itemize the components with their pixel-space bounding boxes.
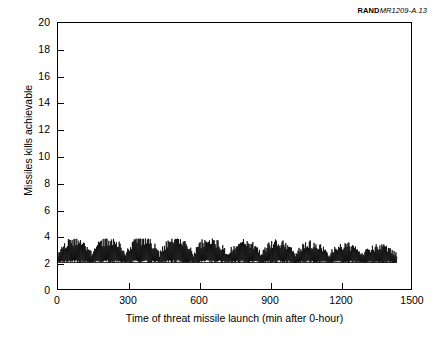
source-tag: RANDMR1209-A.13 <box>358 7 427 15</box>
y-axis-tick <box>58 184 64 185</box>
source-tag-mark: RAND <box>358 6 380 15</box>
y-axis-title: Missiles kills achievable <box>23 50 34 230</box>
y-axis-tick <box>58 103 64 104</box>
y-axis-tick-label: 18 <box>38 44 50 55</box>
y-axis-tick-label: 16 <box>38 70 50 81</box>
series-path <box>58 238 397 262</box>
y-axis-tick-label: 4 <box>44 231 50 242</box>
y-axis-tick-label: 8 <box>44 178 50 189</box>
y-axis-tick-label: 20 <box>38 17 50 28</box>
x-axis-tick <box>271 283 272 289</box>
y-axis-tick <box>58 157 64 158</box>
x-axis-tick <box>342 283 343 289</box>
source-tag-document: MR1209-A.13 <box>380 6 427 15</box>
data-series-line <box>58 23 411 289</box>
figure-container: RANDMR1209-A.13 02468101214161820 030060… <box>0 0 433 341</box>
y-axis-tick-label: 0 <box>44 285 50 296</box>
y-axis-tick <box>58 77 64 78</box>
x-axis-tick-label: 900 <box>261 295 279 306</box>
y-axis-tick <box>58 50 64 51</box>
y-axis-tick-label: 12 <box>38 124 50 135</box>
x-axis-tick-label: 0 <box>54 295 60 306</box>
x-axis-tick-label: 600 <box>190 295 208 306</box>
plot-frame <box>57 22 412 290</box>
x-axis-tick <box>129 283 130 289</box>
x-axis-tick-labels: 030060090012001500 <box>57 295 412 309</box>
y-axis-tick-label: 2 <box>44 258 50 269</box>
y-axis-tick-label: 10 <box>38 151 50 162</box>
y-axis-tick-label: 14 <box>38 97 50 108</box>
plot-area <box>58 23 411 289</box>
y-axis-tick <box>58 237 64 238</box>
y-axis-tick-label: 6 <box>44 204 50 215</box>
x-axis-tick-label: 300 <box>119 295 137 306</box>
y-axis-tick <box>58 211 64 212</box>
x-axis-tick-label: 1200 <box>329 295 352 306</box>
y-axis-tick <box>58 130 64 131</box>
x-axis-title: Time of threat missile launch (min after… <box>57 313 412 324</box>
x-axis-tick <box>200 283 201 289</box>
x-axis-tick-label: 1500 <box>400 295 423 306</box>
y-axis-tick <box>58 264 64 265</box>
